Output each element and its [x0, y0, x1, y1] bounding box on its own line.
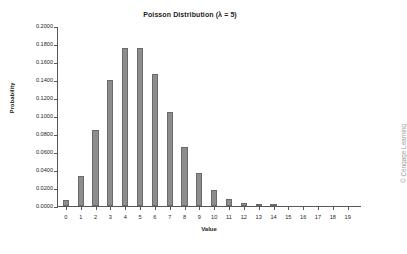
y-tick-label: 0.0800 — [36, 131, 53, 137]
x-tick-mark — [185, 206, 186, 210]
y-tick-label: 0.1600 — [36, 59, 53, 65]
x-tick-label: 10 — [207, 214, 221, 220]
x-axis-line — [57, 206, 361, 207]
bar — [241, 203, 247, 206]
y-tick-mark — [54, 45, 58, 46]
x-tick-label: 2 — [89, 214, 103, 220]
chart-title: Poisson Distribution (λ = 5) — [0, 11, 380, 18]
x-tick-label: 7 — [163, 214, 177, 220]
x-tick-label: 12 — [237, 214, 251, 220]
x-tick-label: 1 — [74, 214, 88, 220]
x-tick-mark — [288, 206, 289, 210]
bar — [63, 200, 69, 206]
x-tick-label: 3 — [103, 214, 117, 220]
y-tick-label: 0.1200 — [36, 95, 53, 101]
x-tick-mark — [66, 206, 67, 210]
x-tick-mark — [274, 206, 275, 210]
x-tick-label: 9 — [192, 214, 206, 220]
x-tick-mark — [214, 206, 215, 210]
y-tick-mark — [54, 27, 58, 28]
bar — [256, 204, 262, 206]
bar — [107, 80, 113, 206]
bar — [122, 48, 128, 206]
x-tick-mark — [125, 206, 126, 210]
bar — [78, 176, 84, 206]
x-tick-mark — [259, 206, 260, 210]
x-tick-label: 15 — [281, 214, 295, 220]
bar — [270, 204, 276, 206]
y-tick-label: 0.0600 — [36, 149, 53, 155]
x-tick-mark — [140, 206, 141, 210]
x-tick-mark — [170, 206, 171, 210]
x-tick-mark — [318, 206, 319, 210]
x-tick-label: 4 — [118, 214, 132, 220]
x-tick-label: 18 — [326, 214, 340, 220]
y-tick-mark — [54, 207, 58, 208]
x-tick-label: 14 — [267, 214, 281, 220]
x-tick-mark — [229, 206, 230, 210]
x-tick-label: 16 — [296, 214, 310, 220]
bar — [137, 48, 143, 206]
y-tick-label: 0.0400 — [36, 167, 53, 173]
y-tick-mark — [54, 135, 58, 136]
x-tick-mark — [81, 206, 82, 210]
x-tick-label: 19 — [341, 214, 355, 220]
x-tick-mark — [333, 206, 334, 210]
y-tick-mark — [54, 153, 58, 154]
x-tick-mark — [96, 206, 97, 210]
y-tick-mark — [54, 63, 58, 64]
x-axis-label: Value — [57, 226, 361, 232]
bar — [181, 147, 187, 206]
y-tick-label: 0.0200 — [36, 185, 53, 191]
x-tick-mark — [155, 206, 156, 210]
x-tick-label: 6 — [148, 214, 162, 220]
y-tick-label: 0.0000 — [36, 203, 53, 209]
y-tick-mark — [54, 189, 58, 190]
y-tick-label: 0.1800 — [36, 41, 53, 47]
y-tick-label: 0.2000 — [36, 23, 53, 29]
x-tick-label: 11 — [222, 214, 236, 220]
bar — [152, 74, 158, 206]
plot-area: 0.00000.02000.04000.06000.08000.10000.12… — [57, 27, 361, 207]
y-tick-mark — [54, 117, 58, 118]
bar — [196, 173, 202, 206]
x-tick-label: 13 — [252, 214, 266, 220]
y-tick-mark — [54, 171, 58, 172]
x-tick-mark — [244, 206, 245, 210]
y-tick-label: 0.1000 — [36, 113, 53, 119]
y-tick-mark — [54, 81, 58, 82]
x-tick-mark — [110, 206, 111, 210]
bar — [226, 199, 232, 206]
y-tick-label: 0.1400 — [36, 77, 53, 83]
x-tick-mark — [199, 206, 200, 210]
bar — [211, 190, 217, 206]
x-tick-mark — [303, 206, 304, 210]
bar — [167, 112, 173, 206]
copyright-watermark: © Cengage Learning — [400, 124, 407, 183]
x-tick-label: 0 — [59, 214, 73, 220]
x-tick-mark — [348, 206, 349, 210]
x-tick-label: 8 — [178, 214, 192, 220]
y-tick-mark — [54, 99, 58, 100]
x-tick-label: 17 — [311, 214, 325, 220]
bar — [92, 130, 98, 206]
x-tick-label: 5 — [133, 214, 147, 220]
y-axis-label: Probability — [9, 68, 15, 128]
